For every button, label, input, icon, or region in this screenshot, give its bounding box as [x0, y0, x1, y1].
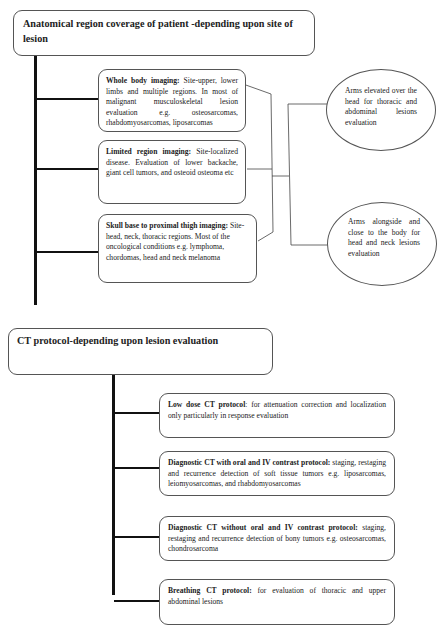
- section2-title: CT protocol-depending upon lesion evalua…: [17, 333, 264, 348]
- whole-body-imaging-box: Whole body imaging: Site-upper, lower li…: [98, 69, 246, 132]
- item-label: Whole body imaging:: [106, 76, 180, 85]
- skull-base-to-thigh-imaging-box: Skull base to proximal thigh imaging: Si…: [98, 214, 257, 283]
- diagnostic-ct-without-contrast-box: Diagnostic CT without oral and IV contra…: [159, 516, 395, 561]
- item-label: Breathing CT protocol:: [168, 586, 252, 595]
- limited-region-imaging-box: Limited region imaging: Site-localized d…: [98, 140, 246, 204]
- breathing-ct-box: Breathing CT protocol: for evaluation of…: [159, 579, 395, 625]
- diagnostic-ct-with-contrast-box: Diagnostic CT with oral and IV contrast …: [159, 451, 395, 496]
- arms-elevated-ellipse: Arms elevated over the head for thoracic…: [326, 69, 436, 151]
- section1-title: Anatomical region coverage of patient -d…: [23, 16, 305, 46]
- position-text: Arms alongside and close to the body for…: [348, 217, 420, 258]
- item-label: Diagnostic CT with oral and IV contrast …: [168, 458, 330, 467]
- position-text: Arms elevated over the head for thoracic…: [345, 86, 417, 127]
- item-label: Skull base to proximal thigh imaging:: [106, 221, 228, 230]
- item-label: Limited region imaging:: [106, 147, 191, 156]
- section2-header-box: CT protocol-depending upon lesion evalua…: [8, 328, 273, 375]
- section1-header-box: Anatomical region coverage of patient -d…: [13, 10, 315, 56]
- arms-alongside-ellipse: Arms alongside and close to the body for…: [327, 202, 437, 286]
- item-label: Low dose CT protocol: [168, 400, 245, 409]
- item-label: Diagnostic CT without oral and IV contra…: [168, 523, 358, 532]
- low-dose-ct-box: Low dose CT protocol: for attenuation co…: [159, 393, 395, 438]
